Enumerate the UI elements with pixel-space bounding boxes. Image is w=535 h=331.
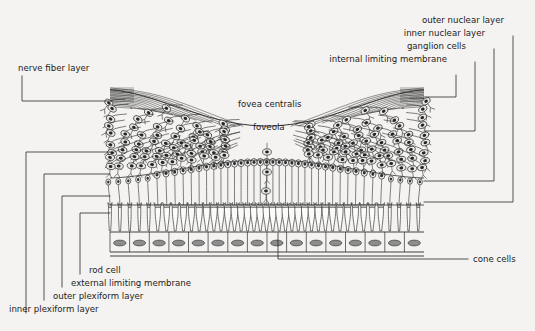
label-external-limiting-membrane: external limiting membrane: [71, 278, 191, 288]
leader-inner-plexiform-layer: [26, 152, 110, 313]
leader-ganglion-cells: [424, 62, 475, 131]
label-rod-cell: rod cell: [89, 265, 121, 275]
label-cone-cells: cone cells: [473, 254, 516, 264]
leader-internal-limiting-membrane: [424, 75, 456, 97]
retina-tissue-drawing: [99, 88, 437, 256]
leader-inner-nuclear-layer: [424, 49, 494, 181]
label-inner-plexiform-layer: inner plexiform layer: [9, 304, 99, 314]
label-ganglion-cells: ganglion cells: [407, 41, 467, 51]
retina-fovea-diagram: nerve fiber layer rod cell external limi…: [0, 0, 535, 331]
label-outer-nuclear-layer: outer nuclear layer: [422, 15, 504, 25]
label-internal-limiting-membrane: internal limiting membrane: [329, 54, 447, 64]
label-fovea-centralis: fovea centralis: [238, 99, 302, 109]
label-outer-plexiform-layer: outer plexiform layer: [53, 291, 144, 301]
leader-nerve-fiber-layer: [22, 76, 112, 101]
label-foveola: foveola: [253, 122, 285, 132]
label-nerve-fiber-layer: nerve fiber layer: [18, 63, 90, 73]
label-inner-nuclear-layer: inner nuclear layer: [404, 28, 486, 38]
